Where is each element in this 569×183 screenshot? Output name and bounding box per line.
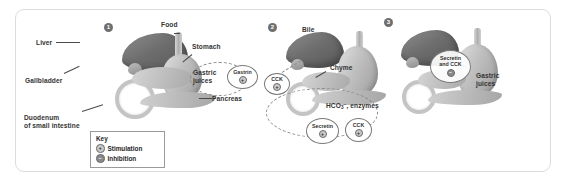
inhibition-icon: − [96, 154, 105, 163]
secretin-cck-bubble-label: Secretin and CCK [439, 56, 461, 68]
pancreas-leader-line [199, 98, 212, 99]
duodenum-leader-line [82, 104, 103, 112]
duodenum-label-line1: Duodenum of small intestine [24, 114, 80, 129]
gastric-juices-label-3: Gastric juices [476, 72, 506, 87]
food-label: Food [161, 21, 178, 29]
key-title: Key [96, 135, 159, 142]
gastrin-stimulation-sign: + [239, 76, 247, 84]
stomach-label: Stomach [192, 43, 221, 51]
gallbladder-leader-line [64, 66, 80, 74]
intestine-illustration [132, 67, 192, 89]
step-marker-3: 3 [384, 18, 393, 27]
cck-upper-stimulation-sign: + [273, 83, 281, 91]
cck-bubble-lower-label: CCK [353, 123, 364, 129]
secretions-label: HCO3−, enzymes [326, 101, 379, 112]
key-box: Key + Stimulation − Inhibition [90, 131, 165, 168]
step-marker-2: 2 [268, 23, 277, 32]
gastrin-bubble: Gastrin + [227, 65, 258, 89]
secretin-stimulation-sign: + [319, 130, 327, 138]
panel-1: 1 Liver Gallbladder Duodenum of small in… [16, 10, 271, 171]
gastric-juices-label: Gastric juices [193, 69, 223, 84]
stimulation-icon: + [96, 144, 105, 153]
key-row-inhibition: − Inhibition [96, 154, 159, 163]
secretin-cck-inhibition-sign: − [447, 69, 455, 77]
key-row-stimulation: + Stimulation [96, 144, 159, 153]
panel-2: 2 Bile Chyme HCO3−, enzymes CCK + Secret… [264, 10, 399, 171]
pancreas-label: Pancreas [212, 95, 242, 103]
pancreas-illustration-3 [428, 90, 502, 105]
inhibition-label: Inhibition [108, 155, 137, 162]
figure-frame: 1 Liver Gallbladder Duodenum of small in… [15, 9, 551, 172]
chyme-label: Chyme [330, 64, 353, 72]
bicarbonate-charge: − [344, 102, 347, 107]
bile-label: Bile [302, 26, 315, 34]
secretin-cck-bubble: Secretin and CCK − [430, 50, 471, 83]
pancreas-illustration [140, 92, 216, 108]
cck-lower-stimulation-sign: + [355, 129, 363, 137]
stimulation-label: Stimulation [108, 145, 143, 152]
liver-label: Liver [36, 39, 52, 47]
gallbladder-label: Gallbladder [25, 77, 62, 85]
cck-bubble-lower: CCK + [345, 118, 372, 142]
secretin-bubble: Secretin + [306, 118, 339, 144]
gastrin-bubble-label: Gastrin [233, 70, 252, 76]
panel-3: 3 Secretin and CCK − Gastric juices [384, 10, 552, 171]
secretin-bubble-label: Secretin [312, 124, 333, 130]
liver-leader-line [56, 42, 80, 43]
gallbladder-illustration-3 [406, 57, 419, 68]
duodenum-label: Duodenum of small intestine [24, 114, 84, 129]
cck-bubble-upper-label: CCK [271, 77, 282, 83]
food-leader-line [174, 33, 180, 34]
step-marker-1: 1 [104, 23, 113, 32]
cck-bubble-upper: CCK + [264, 73, 290, 95]
